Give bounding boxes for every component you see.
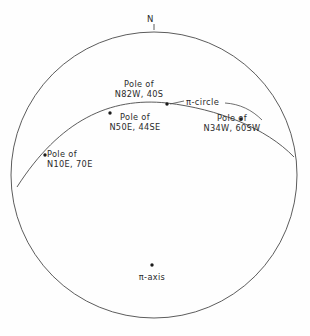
pi-circle-leader-line	[170, 101, 184, 104]
pole-label-n50e-line2: N50E, 44SE	[92, 122, 178, 132]
pole-label-n34w: Pole of N34W, 60SW	[190, 113, 274, 133]
pole-label-n82w-line1: Pole of	[96, 79, 182, 89]
pole-label-n10e-line1: Pole of	[47, 149, 121, 159]
pole-label-n50e: Pole of N50E, 44SE	[92, 112, 178, 132]
pole-dot-n82w[interactable]	[165, 102, 168, 105]
pole-label-n50e-line1: Pole of	[92, 112, 178, 122]
stereonet-figure: N Pole of N82W, 40S π-circle Pole of N50…	[0, 0, 310, 336]
pi-axis-dot[interactable]	[150, 263, 153, 266]
pi-axis-label: π-axis	[119, 272, 185, 282]
pole-label-n10e-line2: N10E, 70E	[47, 159, 121, 169]
pole-label-n82w-line2: N82W, 40S	[96, 89, 182, 99]
north-label: N	[147, 14, 154, 24]
pole-label-n34w-line2: N34W, 60SW	[190, 123, 274, 133]
pole-label-n82w: Pole of N82W, 40S	[96, 79, 182, 99]
pole-label-n10e: Pole of N10E, 70E	[47, 149, 121, 169]
pole-label-n34w-line1: Pole of	[190, 113, 274, 123]
pi-circle-label: π-circle	[186, 97, 219, 107]
